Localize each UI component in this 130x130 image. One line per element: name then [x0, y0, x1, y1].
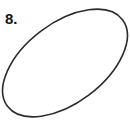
ellipse-shape: [0, 0, 130, 130]
figure-canvas: 8.: [0, 0, 130, 130]
item-number-label: 8.: [5, 10, 18, 27]
ellipse-figure-svg: [0, 0, 130, 130]
